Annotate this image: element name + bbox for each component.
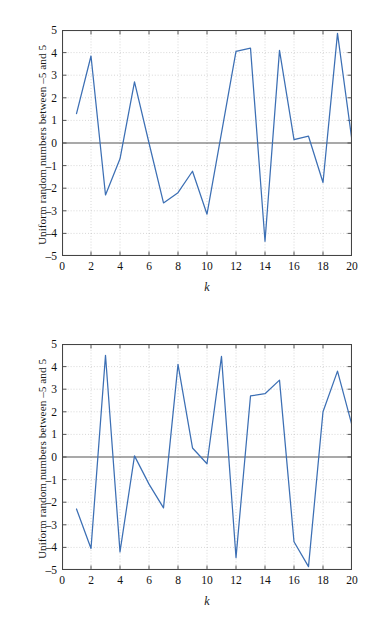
x-tick-label-top: 2 bbox=[88, 260, 94, 272]
y-tick-label-bottom: 0 bbox=[51, 451, 57, 463]
x-tick-label-bottom: 6 bbox=[146, 574, 152, 586]
y-tick-label-top: 4 bbox=[51, 47, 57, 59]
x-tick-label-bottom: 4 bbox=[117, 574, 123, 586]
y-tick-label-top: 0 bbox=[51, 137, 57, 149]
x-tick-label-top: 14 bbox=[259, 260, 271, 272]
y-tick-label-top: –2 bbox=[46, 182, 58, 194]
data-series-line-bottom bbox=[77, 355, 353, 566]
x-tick-label-bottom: 14 bbox=[259, 574, 271, 586]
data-series-line-top bbox=[77, 33, 353, 241]
x-tick-label-top: 12 bbox=[230, 260, 242, 272]
y-tick-label-bottom: 4 bbox=[51, 361, 57, 373]
x-tick-label-top: 0 bbox=[59, 260, 65, 272]
plot-svg-top bbox=[62, 30, 352, 256]
x-tick-label-bottom: 8 bbox=[175, 574, 181, 586]
y-tick-label-bottom: 2 bbox=[51, 406, 57, 418]
x-tick-label-top: 4 bbox=[117, 260, 123, 272]
plot-svg-bottom bbox=[62, 344, 352, 570]
x-tick-label-top: 16 bbox=[288, 260, 300, 272]
plot-area-top: 543210–1–2–3–4–502468101214161820 bbox=[62, 30, 352, 256]
y-tick-label-bottom: –3 bbox=[46, 519, 58, 531]
x-tick-label-top: 10 bbox=[201, 260, 213, 272]
x-tick-label-top: 18 bbox=[317, 260, 329, 272]
y-tick-label-top: 5 bbox=[51, 24, 57, 36]
chart-panel-top: Uniform random numbers between –5 and 5 … bbox=[0, 8, 380, 308]
x-tick-label-bottom: 20 bbox=[346, 574, 358, 586]
x-tick-label-bottom: 18 bbox=[317, 574, 329, 586]
figure-page: Uniform random numbers between –5 and 5 … bbox=[0, 0, 380, 629]
y-tick-label-bottom: –1 bbox=[46, 474, 58, 486]
y-tick-label-top: –3 bbox=[46, 205, 58, 217]
x-tick-label-top: 8 bbox=[175, 260, 181, 272]
x-tick-label-bottom: 12 bbox=[230, 574, 242, 586]
x-axis-label-top: k bbox=[62, 280, 352, 295]
y-tick-label-top: 1 bbox=[51, 114, 57, 126]
y-tick-label-bottom: –5 bbox=[46, 564, 58, 576]
y-tick-label-bottom: –4 bbox=[46, 541, 58, 553]
x-tick-label-bottom: 16 bbox=[288, 574, 300, 586]
x-tick-label-bottom: 2 bbox=[88, 574, 94, 586]
x-tick-label-bottom: 0 bbox=[59, 574, 65, 586]
x-tick-label-top: 6 bbox=[146, 260, 152, 272]
y-tick-label-bottom: 3 bbox=[51, 383, 57, 395]
chart-panel-bottom: Uniform random numbers between –5 and 5 … bbox=[0, 322, 380, 622]
y-tick-label-top: 2 bbox=[51, 92, 57, 104]
y-tick-label-bottom: 5 bbox=[51, 338, 57, 350]
y-tick-label-bottom: 1 bbox=[51, 428, 57, 440]
x-axis-label-bottom: k bbox=[62, 594, 352, 609]
y-tick-label-top: –1 bbox=[46, 160, 58, 172]
y-tick-label-bottom: –2 bbox=[46, 496, 58, 508]
y-tick-label-top: –5 bbox=[46, 250, 58, 262]
x-tick-label-top: 20 bbox=[346, 260, 358, 272]
x-tick-label-bottom: 10 bbox=[201, 574, 213, 586]
plot-area-bottom: 543210–1–2–3–4–502468101214161820 bbox=[62, 344, 352, 570]
y-tick-label-top: –4 bbox=[46, 227, 58, 239]
y-tick-label-top: 3 bbox=[51, 69, 57, 81]
